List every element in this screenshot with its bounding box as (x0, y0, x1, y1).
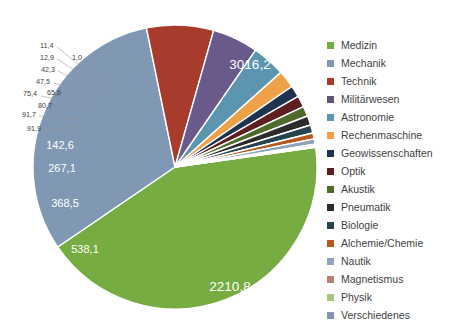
legend-item-label: Optik (341, 166, 366, 177)
slice-value-label-outside: 1,0 (72, 53, 82, 62)
legend-color-swatch (327, 222, 334, 229)
legend-item-label: Militärwesen (341, 94, 399, 105)
legend-item-label: Medizin (341, 40, 377, 51)
slice-value-label-outside: 91,9 (27, 124, 41, 133)
legend-item-label: Physik (341, 292, 372, 303)
legend-item-label: Technik (341, 76, 377, 87)
slice-value-label-outside: 80,7 (38, 101, 52, 110)
slice-value-label-outside: 12,9 (40, 53, 54, 62)
legend-item[interactable]: Nautik (327, 253, 468, 271)
legend-color-swatch (327, 294, 334, 301)
legend-item[interactable]: Optik (327, 162, 468, 180)
legend-item-label: Geowissenschaften (341, 148, 433, 159)
legend-item-label: Astronomie (341, 112, 394, 123)
slice-value-label: 538,1 (71, 243, 99, 255)
legend-item-label: Rechenmaschine (341, 130, 422, 141)
legend-item[interactable]: Physik (327, 289, 468, 307)
pie-chart-plot-area: 3016,22210,8538,1368,5267,1142,6 11,412,… (0, 0, 330, 330)
slice-value-label-outside: 42,3 (41, 65, 55, 74)
legend-item[interactable]: Alchemie/Chemie (327, 235, 468, 253)
slice-value-label: 368,5 (51, 197, 79, 209)
legend-color-swatch (327, 132, 334, 139)
legend-item[interactable]: Militärwesen (327, 90, 468, 108)
legend-item[interactable]: Verschiedenes (327, 307, 468, 325)
legend-color-swatch (327, 150, 334, 157)
legend-item-label: Mechanik (341, 58, 386, 69)
legend-color-swatch (327, 258, 334, 265)
legend-color-swatch (327, 114, 334, 121)
legend-color-swatch (327, 312, 334, 319)
legend-color-swatch (327, 168, 334, 175)
legend-item-label: Nautik (341, 256, 371, 267)
slice-value-label-outside: 47,5 (36, 77, 50, 86)
legend-item-label: Magnetismus (341, 274, 403, 285)
legend-item[interactable]: Magnetismus (327, 271, 468, 289)
slice-value-label-outside: 91,7 (22, 110, 36, 119)
legend-item[interactable]: Pneumatik (327, 198, 468, 216)
legend-item[interactable]: Rechenmaschine (327, 126, 468, 144)
pie-chart-figure: 3016,22210,8538,1368,5267,1142,6 11,412,… (0, 0, 468, 330)
slice-value-label: 3016,2 (229, 57, 270, 72)
slice-value-label: 2210,8 (209, 279, 250, 294)
legend-item-label: Pneumatik (341, 202, 391, 213)
legend-color-swatch (327, 186, 334, 193)
legend-color-swatch (327, 276, 334, 283)
legend-color-swatch (327, 78, 334, 85)
legend-item[interactable]: Akustik (327, 180, 468, 198)
slice-value-label-outside: 75,4 (23, 89, 37, 98)
legend-item[interactable]: Biologie (327, 216, 468, 234)
legend-item[interactable]: Mechanik (327, 54, 468, 72)
legend-item-label: Biologie (341, 220, 378, 231)
legend-item-label: Verschiedenes (341, 310, 410, 321)
legend-color-swatch (327, 240, 334, 247)
legend-color-swatch (327, 204, 334, 211)
legend-item[interactable]: Geowissenschaften (327, 144, 468, 162)
legend-color-swatch (327, 42, 334, 49)
pie-chart-svg: 3016,22210,8538,1368,5267,1142,6 11,412,… (0, 0, 330, 330)
slice-value-label-outside: 65,6 (47, 88, 61, 97)
slice-value-label: 142,6 (46, 139, 74, 151)
legend-item[interactable]: Technik (327, 72, 468, 90)
legend-item-label: Akustik (341, 184, 375, 195)
legend-item[interactable]: Astronomie (327, 108, 468, 126)
legend-color-swatch (327, 60, 334, 67)
legend-item[interactable]: Medizin (327, 36, 468, 54)
slice-value-label: 267,1 (48, 162, 76, 174)
slice-value-label-outside: 11,4 (40, 41, 53, 50)
chart-legend: MedizinMechanikTechnikMilitärwesenAstron… (327, 36, 468, 325)
legend-item-label: Alchemie/Chemie (341, 238, 423, 249)
legend-color-swatch (327, 96, 334, 103)
